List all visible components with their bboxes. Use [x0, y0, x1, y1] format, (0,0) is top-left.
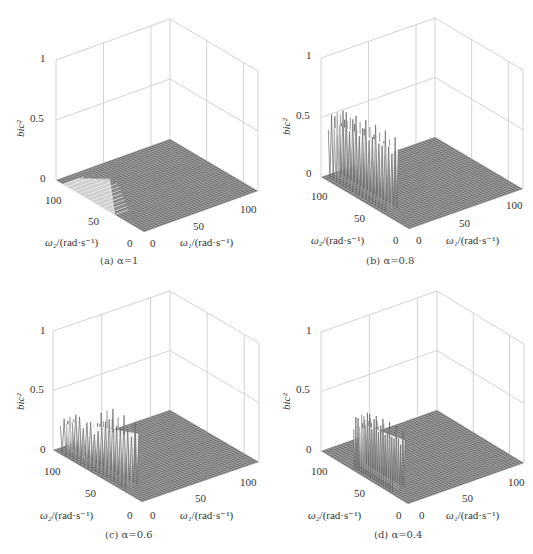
z-axis-label: bic² — [280, 393, 292, 410]
y-tick-0: 0 — [127, 510, 133, 521]
y-tick-100: 100 — [45, 195, 62, 206]
z-tick-0.5: 0.5 — [296, 384, 310, 395]
y-tick-50: 50 — [85, 488, 96, 499]
z-tick-0: 0 — [306, 444, 312, 455]
y-axis-label: ω₂/(rad·s⁻¹) — [40, 509, 93, 522]
z-axis-label: bic² — [14, 120, 26, 137]
x-tick-100: 100 — [240, 204, 257, 215]
x-tick-100: 100 — [508, 477, 525, 488]
z-axis-label: bic² — [14, 393, 26, 410]
y-tick-100: 100 — [44, 466, 61, 477]
x-tick-50: 50 — [193, 221, 204, 232]
panel-c: 1 0.5 0 bic² 100 50 0 0 50 100 ω₂/(rad·s… — [0, 277, 266, 554]
panel-d: 1 0.5 0 bic² 100 50 0 0 50 100 ω₂/(rad·s… — [266, 277, 532, 554]
x-tick-50: 50 — [462, 493, 473, 504]
y-axis-label: ω₂/(rad·s⁻¹) — [45, 236, 98, 249]
z-tick-0: 0 — [40, 444, 46, 455]
y-tick-50: 50 — [354, 213, 365, 224]
z-tick-0.5: 0.5 — [30, 384, 44, 395]
z-tick-0.5: 0.5 — [30, 113, 44, 124]
y-tick-100: 100 — [311, 466, 328, 477]
y-tick-0: 0 — [393, 235, 399, 246]
z-tick-1: 1 — [40, 53, 46, 64]
x-axis-label: ω₁/(rad·s⁻¹) — [180, 236, 233, 249]
panel-a: 1 0.5 0 bic² 100 50 0 0 50 100 ω₂/(rad·s… — [0, 0, 266, 277]
y-tick-0: 0 — [127, 238, 133, 249]
panel-caption: (c) α=0.6 — [105, 529, 153, 540]
x-tick-0: 0 — [419, 510, 425, 521]
x-axis-label: ω₁/(rad·s⁻¹) — [446, 509, 499, 522]
x-tick-50: 50 — [459, 218, 470, 229]
y-axis-label: ω₂/(rad·s⁻¹) — [311, 234, 364, 247]
x-tick-0: 0 — [416, 235, 422, 246]
panel-caption: (a) α=1 — [100, 255, 138, 266]
y-axis-label: ω₂/(rad·s⁻¹) — [308, 509, 361, 522]
z-tick-1: 1 — [306, 325, 312, 336]
x-axis-label: ω₁/(rad·s⁻¹) — [446, 234, 499, 247]
x-tick-0: 0 — [150, 238, 156, 249]
x-axis-label: ω₁/(rad·s⁻¹) — [180, 509, 233, 522]
y-tick-50: 50 — [88, 216, 99, 227]
z-tick-0: 0 — [306, 168, 312, 179]
panel-b: 1 0.5 0 bic² 100 50 0 0 50 100 ω₂/(rad·s… — [266, 0, 532, 277]
x-tick-100: 100 — [240, 477, 257, 488]
panel-caption: (b) α=0.8 — [366, 255, 414, 266]
z-tick-1: 1 — [306, 50, 312, 61]
y-tick-100: 100 — [311, 191, 328, 202]
panel-caption: (d) α=0.4 — [374, 529, 422, 540]
y-tick-50: 50 — [354, 488, 365, 499]
y-tick-0: 0 — [396, 510, 402, 521]
x-tick-0: 0 — [150, 510, 156, 521]
z-tick-0: 0 — [40, 173, 46, 184]
z-tick-0.5: 0.5 — [296, 110, 310, 121]
z-axis-label: bic² — [280, 118, 292, 135]
z-tick-1: 1 — [40, 325, 46, 336]
x-tick-100: 100 — [506, 200, 523, 211]
x-tick-50: 50 — [195, 493, 206, 504]
